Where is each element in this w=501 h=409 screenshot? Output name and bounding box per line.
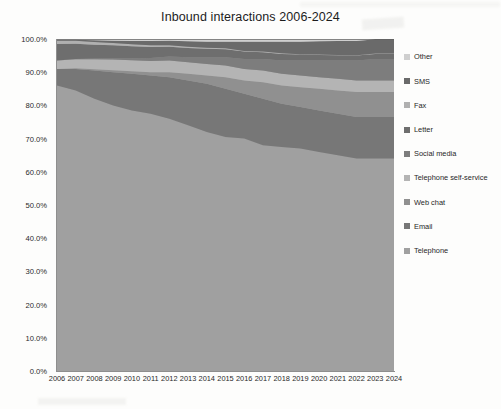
x-tick-label: 2023 bbox=[367, 374, 383, 383]
legend-item[interactable]: Telephone self-service bbox=[404, 166, 500, 190]
chart-title: Inbound interactions 2006-2024 bbox=[0, 10, 501, 24]
legend-item[interactable]: Other bbox=[404, 45, 500, 69]
legend-swatch-icon bbox=[404, 199, 410, 205]
legend-swatch-icon bbox=[404, 78, 410, 84]
x-tick-label: 2016 bbox=[236, 374, 252, 383]
x-axis: 2006200720082009201020112012201320142015… bbox=[57, 374, 394, 388]
x-tick-label: 2024 bbox=[386, 374, 402, 383]
x-tick-label: 2014 bbox=[199, 374, 215, 383]
legend-swatch-icon bbox=[404, 127, 410, 133]
legend-item-label: Letter bbox=[414, 126, 433, 133]
chart-legend: OtherSMSFaxLetterSocial mediaTelephone s… bbox=[404, 45, 500, 263]
legend-swatch-icon bbox=[404, 175, 410, 181]
scan-artifact-top bbox=[300, 2, 500, 7]
legend-item-label: Other bbox=[414, 53, 432, 60]
x-tick-label: 2017 bbox=[255, 374, 271, 383]
x-tick-label: 2010 bbox=[124, 374, 140, 383]
legend-item-label: Fax bbox=[414, 102, 426, 109]
legend-swatch-icon bbox=[404, 223, 410, 229]
y-tick-label: 50.0% bbox=[25, 201, 47, 210]
scan-artifact-bottom bbox=[38, 398, 126, 405]
x-tick-label: 2007 bbox=[67, 374, 83, 383]
y-tick-label: 60.0% bbox=[25, 167, 47, 176]
legend-swatch-icon bbox=[404, 248, 410, 254]
x-tick-label: 2012 bbox=[161, 374, 177, 383]
legend-item[interactable]: SMS bbox=[404, 69, 500, 93]
plot-area-wrapper bbox=[57, 39, 394, 371]
y-tick-label: 30.0% bbox=[25, 267, 47, 276]
y-tick-label: 80.0% bbox=[25, 101, 47, 110]
y-tick-label: 0.0% bbox=[30, 367, 47, 376]
legend-item-label: Telephone self-service bbox=[414, 174, 488, 181]
legend-item[interactable]: Email bbox=[404, 214, 500, 238]
legend-item[interactable]: Web chat bbox=[404, 190, 500, 214]
x-tick-label: 2020 bbox=[311, 374, 327, 383]
y-tick-label: 40.0% bbox=[25, 234, 47, 243]
y-tick-label: 70.0% bbox=[25, 134, 47, 143]
x-tick-label: 2006 bbox=[49, 374, 65, 383]
y-tick-label: 100.0% bbox=[21, 35, 47, 44]
x-tick-label: 2013 bbox=[180, 374, 196, 383]
legend-swatch-icon bbox=[404, 151, 410, 157]
x-tick-label: 2022 bbox=[348, 374, 364, 383]
x-tick-label: 2021 bbox=[330, 374, 346, 383]
x-tick-label: 2009 bbox=[105, 374, 121, 383]
stacked-area-svg bbox=[57, 39, 394, 371]
legend-item-label: Web chat bbox=[414, 199, 445, 206]
legend-item[interactable]: Telephone bbox=[404, 239, 500, 263]
legend-item-label: SMS bbox=[414, 78, 430, 85]
legend-item[interactable]: Social media bbox=[404, 142, 500, 166]
legend-item-label: Social media bbox=[414, 150, 456, 157]
legend-item[interactable]: Letter bbox=[404, 118, 500, 142]
x-tick-label: 2018 bbox=[273, 374, 289, 383]
x-tick-label: 2015 bbox=[217, 374, 233, 383]
x-tick-label: 2011 bbox=[143, 374, 159, 383]
y-tick-label: 90.0% bbox=[25, 68, 47, 77]
legend-swatch-icon bbox=[404, 102, 410, 108]
y-axis: 0.0%10.0%20.0%30.0%40.0%50.0%60.0%70.0%8… bbox=[0, 39, 52, 371]
y-tick-label: 20.0% bbox=[25, 300, 47, 309]
legend-item-label: Telephone bbox=[414, 247, 448, 254]
legend-swatch-icon bbox=[404, 54, 410, 60]
legend-item[interactable]: Fax bbox=[404, 93, 500, 117]
y-tick-label: 10.0% bbox=[25, 333, 47, 342]
x-axis-line bbox=[56, 371, 395, 372]
legend-item-label: Email bbox=[414, 223, 432, 230]
chart-page: Inbound interactions 2006-2024 0.0%10.0%… bbox=[0, 0, 501, 409]
plot-area bbox=[57, 39, 394, 371]
x-tick-label: 2019 bbox=[292, 374, 308, 383]
x-tick-label: 2008 bbox=[86, 374, 102, 383]
